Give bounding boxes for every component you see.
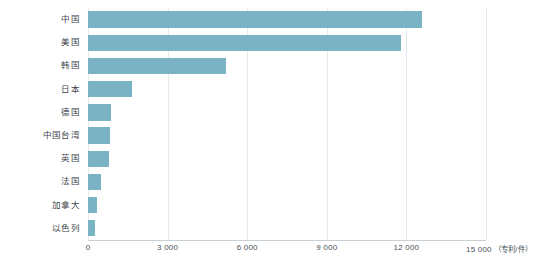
bar-korea <box>88 58 226 74</box>
bar-germany <box>88 104 111 120</box>
table-row: 日本 <box>0 78 549 101</box>
table-row: 德国 <box>0 101 549 124</box>
category-label: 美国 <box>0 31 80 54</box>
category-label: 中国 <box>0 8 80 31</box>
category-label: 法国 <box>0 170 80 193</box>
x-axis-tick-labels: 0 3 000 6 000 9 000 12 000 15 000（专利/件） <box>0 243 549 259</box>
table-row: 英国 <box>0 147 549 170</box>
category-label: 日本 <box>0 78 80 101</box>
bar-track <box>88 54 549 77</box>
table-row: 法国 <box>0 170 549 193</box>
bar-uk <box>88 151 109 167</box>
bar-taiwan <box>88 127 110 143</box>
category-label: 中国台湾 <box>0 124 80 147</box>
x-tick-label-15000: 15 000（专利/件） <box>466 243 532 254</box>
x-tick-label-15000-value: 15 000 <box>466 245 492 254</box>
category-label: 加拿大 <box>0 194 80 217</box>
x-tick-label-12000: 12 000 <box>394 243 420 252</box>
bar-track <box>88 78 549 101</box>
x-tick-label-9000: 9 000 <box>316 243 337 252</box>
category-label: 韩国 <box>0 54 80 77</box>
x-tick-label-6000: 6 000 <box>237 243 258 252</box>
table-row: 加拿大 <box>0 194 549 217</box>
x-axis-unit-label: （专利/件） <box>494 245 532 254</box>
bar-track <box>88 170 549 193</box>
table-row: 中国 <box>0 8 549 31</box>
bar-track <box>88 101 549 124</box>
bar-israel <box>88 220 95 236</box>
table-row: 中国台湾 <box>0 124 549 147</box>
bar-canada <box>88 197 97 213</box>
bar-track <box>88 147 549 170</box>
bar-track <box>88 217 549 240</box>
bar-france <box>88 174 101 190</box>
bar-usa <box>88 35 401 51</box>
bar-track <box>88 8 549 31</box>
category-label: 德国 <box>0 101 80 124</box>
x-axis-line <box>88 240 486 241</box>
bar-chart: 中国 美国 韩国 日本 德国 <box>0 0 549 270</box>
bar-japan <box>88 81 132 97</box>
bar-china <box>88 11 422 27</box>
category-label: 英国 <box>0 147 80 170</box>
x-tick-label-3000: 3 000 <box>157 243 178 252</box>
table-row: 美国 <box>0 31 549 54</box>
bar-rows: 中国 美国 韩国 日本 德国 <box>0 8 549 240</box>
category-label: 以色列 <box>0 217 80 240</box>
x-tick-label-0: 0 <box>86 243 91 252</box>
bar-track <box>88 31 549 54</box>
table-row: 韩国 <box>0 54 549 77</box>
table-row: 以色列 <box>0 217 549 240</box>
bar-track <box>88 124 549 147</box>
bar-track <box>88 194 549 217</box>
